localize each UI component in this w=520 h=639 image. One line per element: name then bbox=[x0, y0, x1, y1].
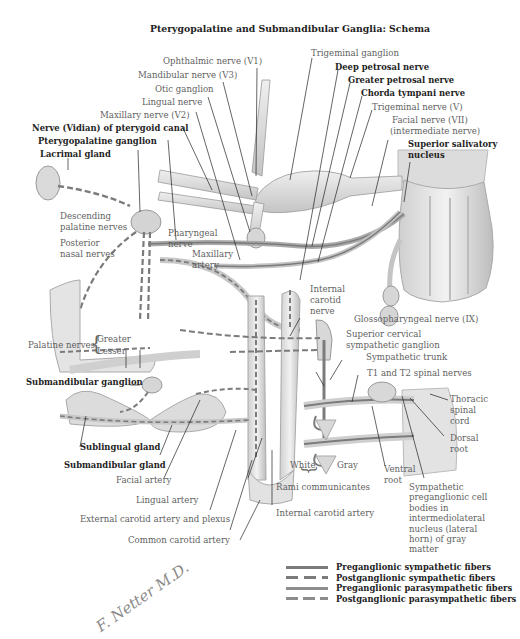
label-submandibular-ganglion: Submandibular ganglion bbox=[26, 377, 143, 387]
label-pterygopalatine-ganglion: Pterygopalatine ganglion bbox=[38, 136, 157, 146]
label-sympathetic-cell-bodies: Sympathetic preganglionic cell bodies in… bbox=[409, 482, 487, 555]
label-lingual-artery: Lingual artery bbox=[136, 495, 198, 505]
label-internal-carotid-nerve: Internal bbox=[310, 284, 345, 294]
legend-label: Preganglionic parasympathetic fibers bbox=[336, 583, 512, 593]
label-facial-nerve-sub: (intermediate nerve) bbox=[390, 126, 480, 136]
label-posterior-nasal-nerves: Posterior bbox=[60, 238, 100, 248]
legend-item-postganglionic-parasympathetic: Postganglionic parasympathetic fibers bbox=[286, 594, 516, 605]
legend-item-preganglionic-parasympathetic: Preganglionic parasympathetic fibers bbox=[286, 583, 516, 594]
label-otic-ganglion: Otic ganglion bbox=[155, 84, 214, 94]
cell-bodies-line: bodies in bbox=[409, 503, 487, 513]
solid-line-swatch bbox=[286, 587, 328, 590]
label-dorsal-root-2: root bbox=[450, 444, 468, 454]
label-ophthalmic-nerve: Ophthalmic nerve (V1) bbox=[163, 56, 262, 66]
label-pharyngeal-nerve: Pharyngeal bbox=[168, 228, 217, 238]
label-chorda-tympani-nerve: Chorda tympani nerve bbox=[361, 88, 465, 98]
label-lacrimal-gland: Lacrimal gland bbox=[40, 149, 111, 159]
label-internal-carotid-artery: Internal carotid artery bbox=[276, 508, 374, 518]
label-external-carotid-artery: External carotid artery and plexus bbox=[80, 514, 230, 524]
label-greater-palatine: Greater bbox=[97, 334, 131, 344]
label-thoracic-spinal-cord-2: spinal bbox=[450, 405, 476, 415]
cell-bodies-line: horn) of gray bbox=[409, 534, 487, 544]
legend-label: Postganglionic sympathetic fibers bbox=[336, 573, 495, 583]
label-superior-salivatory-nucleus: Superior salivatory bbox=[408, 139, 497, 149]
label-descending-palatine-nerves-2: palatine nerves bbox=[60, 222, 127, 232]
label-maxillary-artery-2: artery bbox=[192, 260, 219, 270]
label-superior-salivatory-nucleus-2: nucleus bbox=[408, 150, 445, 160]
label-maxillary-nerve: Maxillary nerve (V2) bbox=[100, 110, 190, 120]
thoracic-spinal-cord bbox=[304, 382, 457, 476]
label-deep-petrosal-nerve: Deep petrosal nerve bbox=[335, 62, 429, 72]
label-facial-artery: Facial artery bbox=[116, 475, 171, 485]
diagram-title: Pterygopalatine and Submandibular Gangli… bbox=[150, 23, 430, 34]
label-internal-carotid-nerve-2: carotid bbox=[310, 295, 341, 305]
cell-bodies-line: preganglionic cell bbox=[409, 492, 487, 502]
lacrimal-gland-shape bbox=[36, 166, 60, 200]
label-thoracic-spinal-cord: Thoracic bbox=[450, 394, 488, 404]
label-trigeminal-ganglion: Trigeminal ganglion bbox=[311, 48, 399, 58]
pterygopalatine-ganglion-shape bbox=[131, 210, 161, 234]
legend: Preganglionic sympathetic fibers Postgan… bbox=[286, 562, 516, 604]
label-sympathetic-trunk: Sympathetic trunk bbox=[366, 352, 447, 362]
label-common-carotid-artery: Common carotid artery bbox=[128, 535, 230, 545]
label-lesser-palatine: Lesser bbox=[97, 346, 126, 356]
label-ventral-root-2: root bbox=[384, 475, 402, 485]
label-internal-carotid-nerve-3: nerve bbox=[310, 306, 335, 316]
label-facial-nerve: Facial nerve (VII) bbox=[392, 115, 468, 125]
dashed-line-swatch bbox=[286, 576, 328, 579]
label-submandibular-gland: Submandibular gland bbox=[64, 460, 166, 470]
legend-label: Postganglionic parasympathetic fibers bbox=[336, 594, 516, 604]
label-mandibular-nerve: Mandibular nerve (V3) bbox=[138, 70, 237, 80]
dashed-line-swatch bbox=[286, 597, 328, 600]
legend-item-preganglionic-sympathetic: Preganglionic sympathetic fibers bbox=[286, 562, 516, 573]
legend-label: Preganglionic sympathetic fibers bbox=[336, 562, 491, 572]
cell-bodies-line: intermediolateral bbox=[409, 513, 487, 523]
cell-bodies-line: Sympathetic bbox=[409, 482, 487, 492]
label-ventral-root: Ventral bbox=[384, 464, 415, 474]
label-thoracic-spinal-cord-3: cord bbox=[450, 416, 470, 426]
label-superior-cervical-ganglion-2: sympathetic ganglion bbox=[346, 340, 440, 350]
label-sublingual-gland: Sublingual gland bbox=[80, 442, 160, 452]
legend-item-postganglionic-sympathetic: Postganglionic sympathetic fibers bbox=[286, 573, 516, 584]
label-vidian-nerve: Nerve (Vidian) of pterygoid canal bbox=[32, 123, 189, 133]
cell-bodies-line: matter bbox=[409, 544, 487, 554]
label-palatine-nerves: Palatine nerves bbox=[28, 340, 95, 350]
label-lingual-nerve: Lingual nerve bbox=[142, 97, 202, 107]
label-trigeminal-nerve: Trigeminal nerve (V) bbox=[372, 102, 463, 112]
label-dorsal-root: Dorsal bbox=[450, 433, 478, 443]
label-t1-t2-spinal-nerves: T1 and T2 spinal nerves bbox=[367, 368, 472, 378]
brace-rami: { bbox=[299, 465, 319, 475]
label-superior-cervical-ganglion: Superior cervical bbox=[346, 329, 421, 339]
label-posterior-nasal-nerves-2: nasal nerves bbox=[60, 249, 115, 259]
cell-bodies-line: nucleus (lateral bbox=[409, 524, 487, 534]
submandibular-region bbox=[60, 354, 256, 432]
solid-line-swatch bbox=[286, 566, 328, 569]
label-descending-palatine-nerves: Descending bbox=[60, 211, 111, 221]
label-glossopharyngeal-nerve: Glossopharyngeal nerve (IX) bbox=[354, 314, 478, 324]
label-greater-petrosal-nerve: Greater petrosal nerve bbox=[348, 75, 454, 85]
label-rami-communicantes: Rami communicantes bbox=[276, 482, 370, 492]
brainstem bbox=[398, 150, 493, 302]
label-gray-ramus: Gray bbox=[337, 460, 358, 470]
label-maxillary-artery: Maxillary bbox=[192, 249, 233, 259]
label-pharyngeal-nerve-2: nerve bbox=[168, 239, 193, 249]
diagram-stage: Pterygopalatine and Submandibular Gangli… bbox=[0, 0, 520, 639]
